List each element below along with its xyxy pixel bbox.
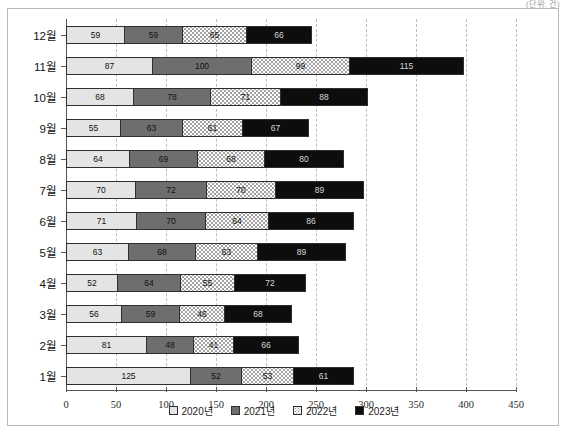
bar-row: 3월56594668 xyxy=(66,305,292,323)
bar-segment: 71 xyxy=(210,88,281,106)
bar-value-label: 68 xyxy=(67,89,133,105)
bar-segment: 64 xyxy=(205,212,269,230)
bar-value-label: 64 xyxy=(67,151,129,167)
bar-value-label: 53 xyxy=(242,368,293,384)
legend-item[interactable]: 2023년 xyxy=(355,403,399,418)
bar-segment: 63 xyxy=(195,243,258,261)
bar-value-label: 88 xyxy=(281,89,367,105)
legend-label: 2023년 xyxy=(368,403,399,418)
bar-row: 2월81484166 xyxy=(66,336,299,354)
bar-value-label: 86 xyxy=(269,213,353,229)
bar-segment: 66 xyxy=(233,336,299,354)
bar-value-label: 87 xyxy=(67,58,152,74)
bar-segment: 67 xyxy=(242,119,309,137)
bar-row: 9월55636167 xyxy=(66,119,309,137)
y-axis-label: 7월 xyxy=(40,182,57,198)
bar-segment: 41 xyxy=(193,336,234,354)
x-tick xyxy=(466,387,467,392)
bar-segment: 89 xyxy=(275,181,364,199)
bar-value-label: 55 xyxy=(67,120,120,136)
bar-segment: 115 xyxy=(349,57,464,75)
bar-segment: 68 xyxy=(128,243,196,261)
legend-label: 2020년 xyxy=(182,403,213,418)
legend-label: 2022년 xyxy=(306,403,337,418)
bar-segment: 46 xyxy=(179,305,225,323)
y-axis-label: 10월 xyxy=(33,89,57,105)
bar-value-label: 55 xyxy=(181,275,234,291)
plot-canvas: 050100150200250300350400450 12월595965661… xyxy=(66,19,516,391)
y-axis-label: 12월 xyxy=(33,27,57,43)
x-tick xyxy=(266,387,267,392)
bar-segment: 86 xyxy=(268,212,354,230)
bar-value-label: 115 xyxy=(350,58,463,74)
bar-value-label: 70 xyxy=(67,182,135,198)
bar-segment: 61 xyxy=(182,119,243,137)
bar-segment: 78 xyxy=(133,88,211,106)
bar-segment: 68 xyxy=(66,88,134,106)
x-tick xyxy=(516,387,517,392)
gridline xyxy=(416,19,417,391)
bar-value-label: 46 xyxy=(180,306,224,322)
bar-segment: 52 xyxy=(66,274,118,292)
bar-value-label: 59 xyxy=(122,306,179,322)
y-axis-label: 8월 xyxy=(40,151,57,167)
bar-segment: 99 xyxy=(251,57,350,75)
bar-value-label: 69 xyxy=(130,151,197,167)
y-axis-label: 6월 xyxy=(40,213,57,229)
bar-row: 7월70727089 xyxy=(66,181,364,199)
bar-value-label: 68 xyxy=(198,151,264,167)
bar-row: 8월64696880 xyxy=(66,150,344,168)
legend-item[interactable]: 2022년 xyxy=(293,403,337,418)
bar-row: 10월68787188 xyxy=(66,88,368,106)
bar-segment: 55 xyxy=(180,274,235,292)
bar-value-label: 52 xyxy=(191,368,241,384)
bar-value-label: 59 xyxy=(67,27,124,43)
bar-value-label: 61 xyxy=(183,120,242,136)
y-axis-label: 4월 xyxy=(40,275,57,291)
legend-swatch xyxy=(231,406,240,415)
bar-segment: 59 xyxy=(124,26,183,44)
x-axis-line xyxy=(66,390,516,391)
bar-segment: 65 xyxy=(182,26,247,44)
bar-value-label: 68 xyxy=(225,306,291,322)
bar-value-label: 61 xyxy=(294,368,353,384)
legend-swatch xyxy=(169,406,178,415)
y-axis-label: 1월 xyxy=(40,368,57,384)
legend-item[interactable]: 2020년 xyxy=(169,403,213,418)
gridline xyxy=(516,19,517,391)
bar-value-label: 70 xyxy=(137,213,205,229)
bar-segment: 56 xyxy=(66,305,122,323)
bar-segment: 87 xyxy=(66,57,153,75)
y-axis-label: 3월 xyxy=(40,306,57,322)
bar-segment: 72 xyxy=(135,181,207,199)
bar-segment: 48 xyxy=(146,336,194,354)
bar-value-label: 66 xyxy=(234,337,298,353)
bar-value-label: 64 xyxy=(118,275,180,291)
bar-segment: 63 xyxy=(66,243,129,261)
y-axis-label: 11월 xyxy=(34,58,57,74)
legend-swatch xyxy=(293,406,302,415)
bar-value-label: 78 xyxy=(134,89,210,105)
x-tick xyxy=(216,387,217,392)
bar-value-label: 63 xyxy=(67,244,128,260)
bar-segment: 55 xyxy=(66,119,121,137)
chart-frame: 050100150200250300350400450 12월595965661… xyxy=(7,8,559,426)
y-axis-label: 5월 xyxy=(40,244,57,260)
bar-segment: 68 xyxy=(224,305,292,323)
bar-row: 5월63686389 xyxy=(66,243,346,261)
x-tick xyxy=(416,387,417,392)
bar-value-label: 66 xyxy=(247,27,311,43)
bar-value-label: 64 xyxy=(206,213,268,229)
bar-value-label: 71 xyxy=(67,213,136,229)
bar-value-label: 81 xyxy=(67,337,146,353)
bar-segment: 59 xyxy=(66,26,125,44)
bar-segment: 66 xyxy=(246,26,312,44)
x-tick xyxy=(66,387,67,392)
bar-segment: 52 xyxy=(190,367,242,385)
legend-item[interactable]: 2021년 xyxy=(231,403,275,418)
bar-row: 12월59596566 xyxy=(66,26,312,44)
legend-label: 2021년 xyxy=(244,403,275,418)
bar-segment: 69 xyxy=(129,150,198,168)
bar-segment: 63 xyxy=(120,119,183,137)
bar-segment: 80 xyxy=(264,150,344,168)
